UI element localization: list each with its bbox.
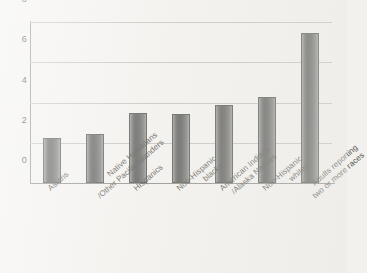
gridline: [30, 62, 332, 63]
gridline: [30, 103, 332, 104]
plot-area: [30, 22, 332, 183]
y-axis-tick-label: 6: [5, 35, 27, 44]
y-axis-tick-label: 4: [5, 76, 27, 85]
x-axis-category-labels: AsiansNative Hawaiians/Other Pacific Isl…: [30, 184, 335, 273]
y-axis-tick-label: 2: [5, 116, 27, 125]
y-axis-tick-labels: 02468: [0, 0, 27, 161]
bar: [172, 114, 190, 183]
y-axis-tick-label: 0: [5, 156, 27, 165]
y-axis-tick-label: 8: [5, 0, 27, 4]
gridline: [30, 22, 332, 23]
